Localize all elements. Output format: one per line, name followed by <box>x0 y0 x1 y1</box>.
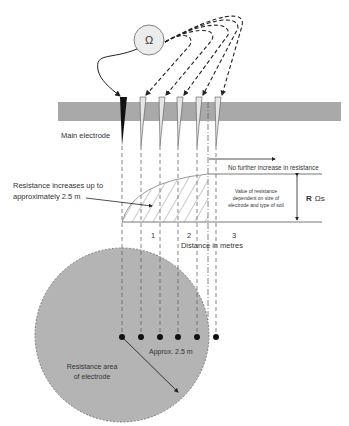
no-further-increase-label: No further increase in resistance <box>228 164 319 171</box>
r-label: RΩs <box>306 194 325 203</box>
main-electrode-icon <box>120 97 127 146</box>
distance-axis-label: Distance in metres <box>181 241 243 250</box>
test-lead-wires <box>146 16 242 95</box>
axis-tick-3: 3 <box>232 231 236 240</box>
area-label-line2: of electrode <box>74 373 111 380</box>
value-label-line1: Value of resistance <box>235 188 277 194</box>
earth-electrode-resistance-diagram: Ω Main electrode No further increase in … <box>0 0 349 426</box>
approx-label: Approx. 2.5 m <box>149 348 193 356</box>
r-unit: Ωs <box>315 194 325 203</box>
value-label-line3: electrode and type of soil <box>228 202 284 208</box>
resistance-curve-area <box>122 174 208 222</box>
axis-tick-1: 1 <box>151 231 155 240</box>
ohm-symbol: Ω <box>145 34 153 46</box>
main-lead-wire <box>98 49 137 96</box>
axis-tick-2: 2 <box>187 231 191 240</box>
main-electrode-label: Main electrode <box>61 131 110 140</box>
area-label-line1: Resistance area <box>67 363 118 370</box>
increase-label-line2: approximately 2.5 m <box>13 192 81 201</box>
r-bold: R <box>306 194 312 203</box>
increase-label-line1: Resistance increases up to <box>13 181 103 190</box>
value-label-line2: dependent on size of <box>233 195 280 201</box>
